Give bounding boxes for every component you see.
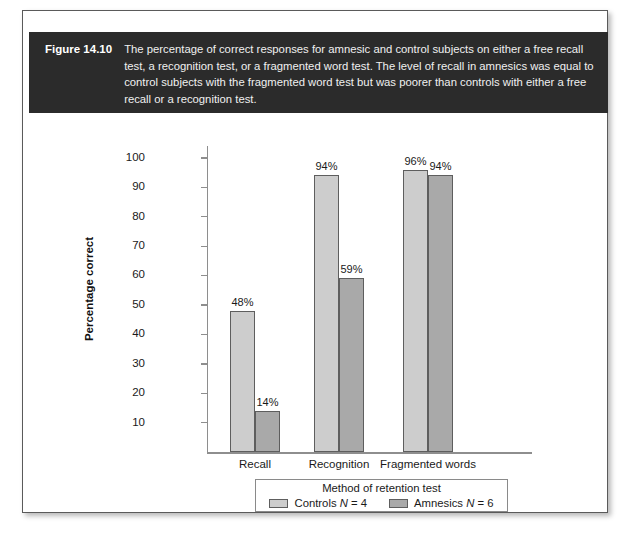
y-tick-mark — [201, 422, 207, 423]
legend-label: Amnesics N = 6 — [414, 498, 493, 509]
x-axis-line — [207, 452, 532, 454]
legend-title: Method of retention test — [256, 483, 507, 494]
y-tick-label: 50 — [93, 299, 145, 311]
y-tick-mark — [201, 334, 207, 335]
y-tick-label: 20 — [93, 387, 145, 399]
bar-fragmented-words-amnesics — [428, 175, 453, 452]
y-tick-mark — [201, 275, 207, 276]
y-tick-label: 100 — [93, 152, 145, 164]
y-tick-label: 60 — [93, 269, 145, 281]
bar-recall-amnesics — [255, 411, 280, 452]
chart-legend: Method of retention test Controls N = 4A… — [255, 479, 508, 512]
bar-value-label: 14% — [252, 397, 284, 408]
legend-swatch-controls — [269, 499, 288, 508]
y-tick-mark — [201, 246, 207, 247]
figure-caption-band: Figure 14.10 The percentage of correct r… — [29, 32, 608, 113]
bar-value-label: 94% — [311, 161, 343, 172]
y-tick-label: 70 — [93, 240, 145, 252]
category-label-fragmented-words: Fragmented words — [368, 459, 488, 471]
bar-chart: Percentage correct 102030405060708090100… — [23, 113, 607, 513]
y-tick-mark — [201, 304, 207, 305]
y-tick-mark — [201, 187, 207, 188]
y-tick-label: 90 — [93, 181, 145, 193]
figure-number-label: Figure 14.10 — [45, 40, 112, 58]
legend-entries: Controls N = 4Amnesics N = 6 — [256, 498, 507, 509]
bar-value-label: 59% — [336, 264, 368, 275]
bar-fragmented-words-controls — [403, 170, 428, 452]
bar-recall-controls — [230, 311, 255, 452]
figure-frame: Figure 14.10 The percentage of correct r… — [22, 10, 608, 513]
bar-value-label: 48% — [227, 297, 259, 308]
bar-value-label: 94% — [425, 161, 457, 172]
y-tick-mark — [201, 216, 207, 217]
figure-caption-text: The percentage of correct responses for … — [124, 40, 594, 107]
y-tick-label: 40 — [93, 328, 145, 340]
y-tick-label: 30 — [93, 358, 145, 370]
bar-recognition-amnesics — [339, 278, 364, 452]
y-tick-mark — [201, 393, 207, 394]
y-tick-mark — [201, 363, 207, 364]
y-tick-label: 80 — [93, 211, 145, 223]
y-tick-mark — [201, 157, 207, 158]
legend-swatch-amnesics — [389, 499, 408, 508]
legend-label: Controls N = 4 — [294, 498, 367, 509]
bar-recognition-controls — [314, 175, 339, 452]
y-axis-line — [207, 146, 208, 453]
y-tick-label: 10 — [93, 417, 145, 429]
y-axis-title: Percentage correct — [83, 209, 95, 369]
legend-entry-controls: Controls N = 4 — [269, 498, 367, 509]
legend-entry-amnesics: Amnesics N = 6 — [389, 498, 493, 509]
